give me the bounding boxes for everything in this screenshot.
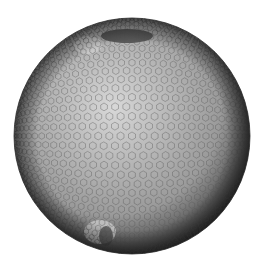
figure: Hexagonal geodesic mesh sphere (0, 0, 263, 270)
hex-mesh-sphere (0, 0, 263, 270)
